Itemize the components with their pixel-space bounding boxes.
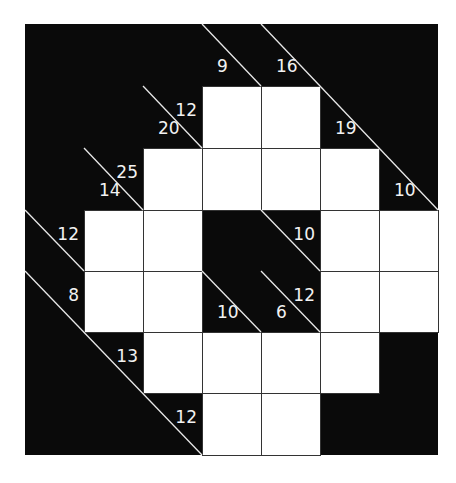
clue-cell-r6-c2: 12 xyxy=(143,393,202,455)
entry-cell-r2-c5[interactable] xyxy=(320,148,380,211)
entry-cell-r1-c4[interactable] xyxy=(261,86,321,149)
down-clue: 14 xyxy=(99,182,121,199)
entry-cell-r5-c5[interactable] xyxy=(320,332,380,394)
across-clue: 13 xyxy=(116,348,138,365)
clue-cell-r3-c0: 12 xyxy=(25,210,84,271)
entry-cell-r3-c5[interactable] xyxy=(320,210,380,272)
kakuro-board: 91612201925141012108101261312 xyxy=(0,0,456,483)
across-clue: 12 xyxy=(57,226,79,243)
entry-cell-r3-c2[interactable] xyxy=(143,210,203,272)
clue-cell-r4-c0: 8 xyxy=(25,271,84,332)
across-clue: 8 xyxy=(68,287,79,304)
clue-cell-r1-c5: 19 xyxy=(320,86,379,148)
clue-cell-r3-c4: 10 xyxy=(261,210,320,271)
entry-cell-r4-c1[interactable] xyxy=(84,271,144,333)
entry-cell-r6-c4[interactable] xyxy=(261,393,321,456)
entry-cell-r2-c2[interactable] xyxy=(143,148,203,211)
down-clue: 10 xyxy=(217,304,239,321)
clue-cell-r2-c1: 2514 xyxy=(84,148,143,210)
clue-cell-r0-c4: 16 xyxy=(261,24,320,86)
down-clue: 9 xyxy=(217,58,228,75)
entry-cell-r4-c6[interactable] xyxy=(379,271,439,333)
down-clue: 10 xyxy=(394,182,416,199)
clue-cell-r2-c6: 10 xyxy=(379,148,438,210)
across-clue: 12 xyxy=(293,287,315,304)
entry-cell-r5-c4[interactable] xyxy=(261,332,321,394)
clue-cell-r1-c2: 1220 xyxy=(143,86,202,148)
entry-cell-r2-c3[interactable] xyxy=(202,148,262,211)
clue-cell-r0-c3: 9 xyxy=(202,24,261,86)
entry-cell-r5-c2[interactable] xyxy=(143,332,203,394)
entry-cell-r3-c1[interactable] xyxy=(84,210,144,272)
entry-cell-r1-c3[interactable] xyxy=(202,86,262,149)
entry-cell-r5-c3[interactable] xyxy=(202,332,262,394)
entry-cell-r6-c3[interactable] xyxy=(202,393,262,456)
clue-cell-r5-c1: 13 xyxy=(84,332,143,393)
across-clue: 12 xyxy=(175,102,197,119)
clue-cell-r4-c4: 126 xyxy=(261,271,320,332)
down-clue: 16 xyxy=(276,58,298,75)
entry-cell-r4-c2[interactable] xyxy=(143,271,203,333)
entry-cell-r3-c6[interactable] xyxy=(379,210,439,272)
across-clue: 10 xyxy=(293,226,315,243)
across-clue: 12 xyxy=(175,409,197,426)
across-clue: 25 xyxy=(116,164,138,181)
down-clue: 6 xyxy=(276,304,287,321)
entry-cell-r4-c5[interactable] xyxy=(320,271,380,333)
clue-cell-r4-c3: 10 xyxy=(202,271,261,332)
down-clue: 20 xyxy=(158,120,180,137)
down-clue: 19 xyxy=(335,120,357,137)
entry-cell-r2-c4[interactable] xyxy=(261,148,321,211)
